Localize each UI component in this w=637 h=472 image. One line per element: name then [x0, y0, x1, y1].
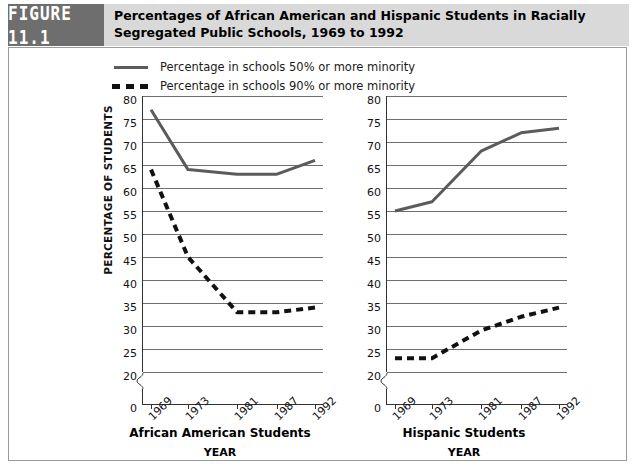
series-line-solid: [395, 128, 559, 211]
legend-label-dashed: Percentage in schools 90% or more minori…: [160, 79, 415, 93]
y-tick-label: 50: [367, 238, 381, 239]
figure-title-text: Percentages of African American and Hisp…: [114, 8, 621, 42]
x-tick-label: 1969: [390, 394, 419, 423]
y-tick-label: 75: [123, 123, 137, 124]
plot-area-african-american: 8075706560555045403530252001969197319811…: [143, 96, 323, 372]
x-tick-label: 1987: [516, 394, 545, 423]
y-tick-label: 55: [367, 215, 381, 216]
series-line-dashed: [151, 170, 315, 313]
figure-title: Percentages of African American and Hisp…: [104, 4, 629, 46]
figure-header: FIGURE 11.1 Percentages of African Ameri…: [8, 4, 629, 46]
x-tick-label: 1973: [427, 394, 456, 423]
legend-key-dashed-icon: [111, 81, 151, 91]
y-tick-label: 40: [367, 284, 381, 285]
y-tick-label: 20: [367, 376, 381, 377]
y-tick-label: 25: [367, 353, 381, 354]
y-tick-label: 25: [123, 353, 137, 354]
plot-area-hispanic: 8075706560555045403530252001969197319811…: [387, 96, 567, 372]
y-tick-label: 75: [367, 123, 381, 124]
x-axis-label-right: YEAR: [349, 446, 579, 459]
y-tick-label: 80: [367, 100, 381, 101]
x-tick-label: 1992: [310, 394, 339, 423]
panel-hispanic: 8075706560555045403530252001969197319811…: [339, 96, 567, 372]
x-tick-label: 1992: [554, 394, 583, 423]
figure-number-text: FIGURE 11.1: [8, 1, 104, 49]
y-tick-label: 70: [367, 146, 381, 147]
series-line-solid: [151, 110, 315, 174]
gridline: [143, 372, 323, 373]
series-line-dashed: [395, 308, 559, 359]
x-tick-label: 1987: [272, 394, 301, 423]
y-tick-label: 55: [123, 215, 137, 216]
x-tick-label: 1969: [146, 394, 175, 423]
x-tick-label: 1973: [183, 394, 212, 423]
x-tick-label: 1981: [232, 394, 261, 423]
y-tick-label: 45: [367, 261, 381, 262]
y-tick-label: 30: [123, 330, 137, 331]
y-tick-label: 60: [367, 192, 381, 193]
y-tick-label: 45: [123, 261, 137, 262]
y-tick-label: 65: [367, 169, 381, 170]
y-tick-label: 70: [123, 146, 137, 147]
y-axis-break-icon: [136, 373, 150, 389]
gridline: [387, 372, 567, 373]
y-tick-label: 80: [123, 100, 137, 101]
x-tick-label: 1981: [476, 394, 505, 423]
y-tick-label-zero: 0: [130, 408, 137, 409]
y-axis-line-lower: [142, 389, 143, 404]
legend-key-solid-icon: [111, 62, 151, 72]
y-axis-break-icon: [380, 373, 394, 389]
y-tick-label: 40: [123, 284, 137, 285]
x-axis-label-left: YEAR: [105, 446, 335, 459]
figure-page: FIGURE 11.1 Percentages of African Ameri…: [0, 0, 637, 472]
series-layer: [143, 96, 323, 372]
y-tick-label: 35: [123, 307, 137, 308]
y-tick-label: 30: [367, 330, 381, 331]
panel-caption-hispanic: Hispanic Students: [349, 426, 579, 440]
series-layer: [387, 96, 567, 372]
y-tick-label-zero: 0: [374, 408, 381, 409]
y-tick-label: 20: [123, 376, 137, 377]
legend-item-solid: Percentage in schools 50% or more minori…: [111, 58, 415, 75]
y-axis-label: PERCENTAGE OF STUDENTS: [102, 105, 114, 275]
y-axis-line-lower: [386, 389, 387, 404]
figure-body: Percentage in schools 50% or more minori…: [8, 47, 627, 461]
legend-item-dashed: Percentage in schools 90% or more minori…: [111, 77, 415, 94]
y-tick-label: 60: [123, 192, 137, 193]
panel-african-american: PERCENTAGE OF STUDENTS 80757065605550454…: [95, 96, 323, 372]
y-tick-label: 65: [123, 169, 137, 170]
legend-label-solid: Percentage in schools 50% or more minori…: [160, 60, 415, 74]
panel-caption-african-american: African American Students: [105, 426, 335, 440]
y-tick-label: 50: [123, 238, 137, 239]
figure-number-badge: FIGURE 11.1: [8, 4, 104, 46]
legend: Percentage in schools 50% or more minori…: [111, 58, 415, 96]
y-tick-label: 35: [367, 307, 381, 308]
